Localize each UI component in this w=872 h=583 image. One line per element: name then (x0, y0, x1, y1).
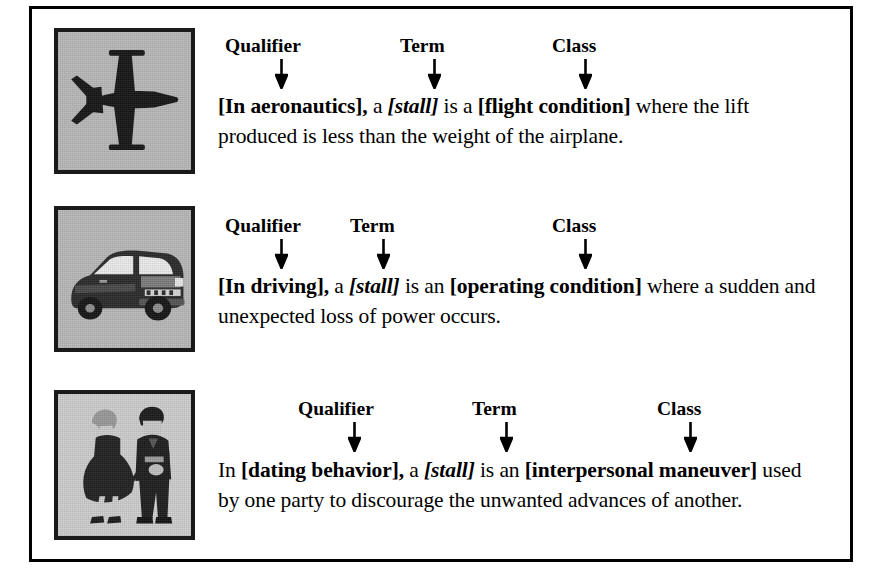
definition-dating: In [dating behavior], a [stall] is an [i… (218, 455, 818, 515)
definition-driving: [In driving], a [stall] is an [operating… (218, 271, 828, 331)
car-thumbnail (54, 206, 195, 352)
arrow-term-driving (377, 239, 390, 269)
arrow-qualifier-driving (275, 239, 288, 269)
arrow-term-aeronautics (428, 59, 441, 89)
arrow-qualifier-aeronautics (275, 59, 288, 89)
arrow-class-dating (684, 422, 697, 452)
label-qualifier-dating: Qualifier (298, 399, 374, 419)
label-qualifier-aeronautics: Qualifier (225, 36, 301, 56)
arrow-class-driving (579, 239, 592, 269)
label-term-dating: Term (472, 399, 517, 419)
dancing-couple-thumbnail (54, 390, 195, 540)
arrow-term-dating (500, 422, 513, 452)
couple-icon (58, 394, 191, 536)
label-class-dating: Class (657, 399, 701, 419)
figure-frame: Qualifier Term Class [In aeronautics], a… (29, 6, 853, 562)
arrow-class-aeronautics (579, 59, 592, 89)
airplane-icon (58, 32, 191, 170)
car-icon (58, 210, 191, 348)
label-term-aeronautics: Term (400, 36, 445, 56)
label-class-aeronautics: Class (552, 36, 596, 56)
airplane-top-view-thumbnail (54, 28, 195, 174)
definition-aeronautics: [In aeronautics], a [stall] is a [flight… (218, 91, 828, 151)
label-term-driving: Term (350, 216, 395, 236)
arrow-qualifier-dating (348, 422, 361, 452)
label-class-driving: Class (552, 216, 596, 236)
label-qualifier-driving: Qualifier (225, 216, 301, 236)
